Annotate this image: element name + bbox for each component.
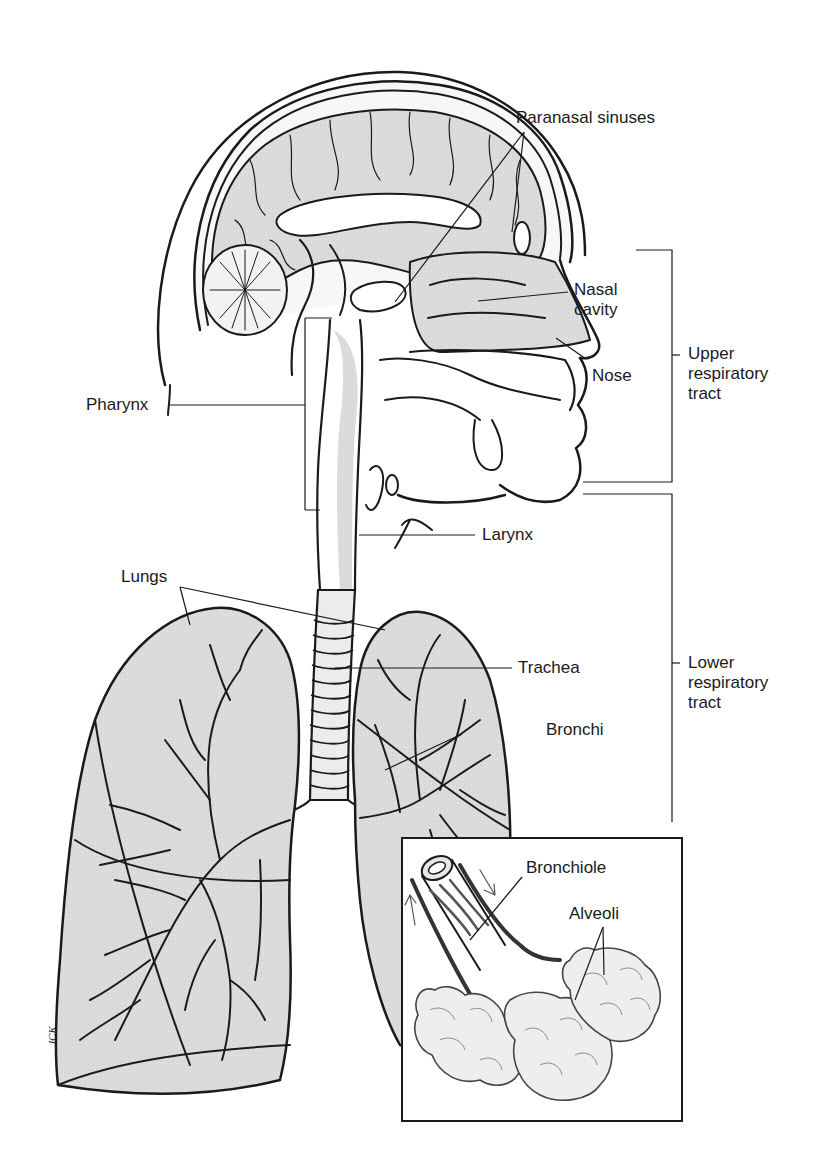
head-illustration <box>158 72 599 590</box>
label-upper-respiratory-tract: Upper respiratory tract <box>688 344 768 404</box>
label-nose: Nose <box>592 366 632 386</box>
label-trachea: Trachea <box>518 658 580 678</box>
label-pharynx: Pharynx <box>86 395 148 415</box>
upper-tract-line2: respiratory <box>688 364 768 384</box>
upper-tract-line3: tract <box>688 384 768 404</box>
label-bronchi: Bronchi <box>546 720 604 740</box>
label-nasal-cavity: Nasal cavity <box>574 280 617 320</box>
lower-tract-line3: tract <box>688 693 768 713</box>
lower-tract-line1: Lower <box>688 653 768 673</box>
label-nasal-cavity-line2: cavity <box>574 300 617 320</box>
right-lung-illustration <box>56 608 299 1094</box>
artist-initials: JCK <box>46 1026 58 1046</box>
label-lower-respiratory-tract: Lower respiratory tract <box>688 653 768 713</box>
lower-tract-line2: respiratory <box>688 673 768 693</box>
label-larynx: Larynx <box>482 525 533 545</box>
bronchiole-alveoli-inset <box>402 838 682 1121</box>
label-alveoli: Alveoli <box>569 904 619 924</box>
label-lungs: Lungs <box>121 567 167 587</box>
label-nasal-cavity-line1: Nasal <box>574 280 617 300</box>
label-bronchiole: Bronchiole <box>526 858 606 878</box>
upper-tract-line1: Upper <box>688 344 768 364</box>
label-paranasal-sinuses: Paranasal sinuses <box>516 108 655 128</box>
